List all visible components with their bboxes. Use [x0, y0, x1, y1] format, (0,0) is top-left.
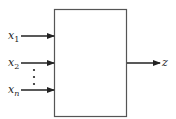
input-x2-label: x2	[8, 56, 19, 71]
input-x1: x1	[8, 29, 54, 44]
ellipsis-dots	[33, 69, 35, 85]
input-xn-label: xn	[8, 83, 19, 98]
input-x1-label: x1	[8, 29, 19, 44]
system-box	[55, 10, 127, 117]
input-x2: x2	[8, 56, 54, 71]
output-z-label: z	[161, 56, 168, 69]
input-xn: xn	[8, 83, 54, 98]
block-diagram: x1 x2 xn z	[0, 0, 176, 119]
output-z: z	[127, 56, 168, 69]
